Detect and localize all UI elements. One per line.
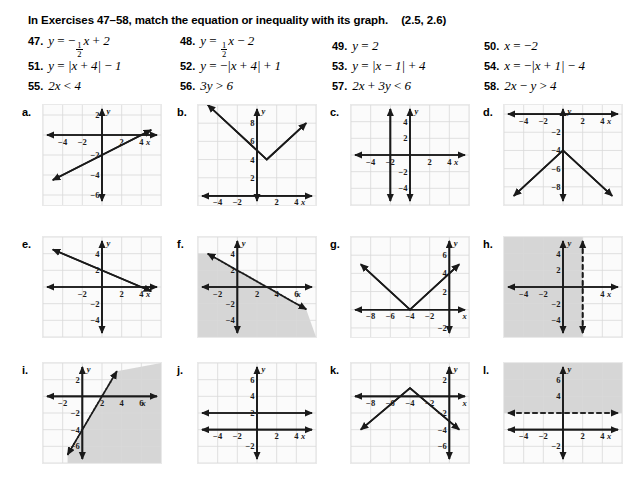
graph-panel-b: b. −4−2248642xy [177,104,322,214]
svg-text:−2: −2 [551,441,560,451]
svg-text:−4: −4 [226,315,236,325]
svg-text:−4: −4 [213,431,223,441]
svg-text:x: x [145,137,151,147]
graph-panel-j: j. −4−224642−2xy [177,362,322,472]
svg-text:−2: −2 [90,150,99,160]
exercise-number: 51. [28,60,43,72]
exercise-number: 48. [180,35,195,47]
svg-text:y: y [414,106,419,116]
exercise-equation: 2x + 3y < 6 [352,78,411,94]
graph-plot-e: −22442−2−4xy [42,236,162,338]
graph-plot-f: −224642−2−4xy [197,236,317,338]
svg-text:4: 4 [139,289,144,299]
svg-text:−2: −2 [425,311,434,321]
graph-label: l. [483,364,489,376]
svg-text:2: 2 [556,265,560,275]
graph-label: b. [177,106,187,118]
svg-text:x: x [300,431,306,441]
svg-text:x: x [606,116,612,126]
svg-text:2: 2 [443,375,447,385]
svg-text:2: 2 [95,110,99,120]
graph-panel-e: e. −22442−2−4xy [22,236,167,346]
svg-text:−6: −6 [71,441,80,451]
svg-text:4: 4 [600,116,605,126]
svg-text:x: x [141,398,147,408]
exercise-56: 56. 3y > 6 [180,78,332,94]
svg-text:2: 2 [100,398,104,408]
exercise-equation: y = −12x + 2 [48,33,109,59]
svg-text:6: 6 [250,375,254,385]
svg-text:y: y [261,364,266,374]
svg-text:−4: −4 [213,197,223,205]
exercise-equation: x = −|x + 1| − 4 [504,58,585,74]
svg-text:−4: −4 [405,398,415,408]
svg-text:−4: −4 [398,183,408,193]
svg-text:−2: −2 [233,431,242,441]
graph-panel-c: c. −4−22442−2−4xy [330,104,475,214]
svg-text:y: y [567,238,572,248]
graph-plot-d: −4−224−2−4−6−8xy [503,104,623,206]
exercise-number: 55. [28,80,43,92]
exercise-equation: y = |x + 4| − 1 [48,58,121,74]
graph-plot-a: −4−2242−2−4−6xy [42,104,162,206]
directions-reference: (2.5, 2.6) [401,14,446,26]
exercise-equation: y = −|x + 4| + 1 [200,58,281,74]
exercise-54: 54. x = −|x + 1| − 4 [484,58,636,74]
svg-text:−6: −6 [438,441,447,451]
svg-text:2: 2 [255,289,259,299]
exercise-number: 54. [484,60,499,72]
svg-text:−2: −2 [386,157,395,167]
svg-text:−2: −2 [425,398,434,408]
exercise-number: 52. [180,60,195,72]
graph-plot-h: −4−2442−2−4xy [503,236,623,338]
exercise-number: 50. [484,40,499,52]
svg-text:−4: −4 [366,157,376,167]
svg-text:2: 2 [443,287,447,297]
exercise-row: 55. 2x < 4 56. 3y > 6 57. 2x + 3y < 6 58… [28,76,638,96]
exercise-number: 57. [332,80,347,92]
graph-plot-k: −8−6−4−22−2−4−6xy [350,362,470,464]
exercise-50: 50. x = −2 [484,38,636,54]
svg-text:−2: −2 [78,137,87,147]
svg-text:2: 2 [95,265,99,275]
svg-text:4: 4 [120,398,125,408]
svg-text:−4: −4 [551,145,561,155]
exercise-57: 57. 2x + 3y < 6 [332,78,484,94]
svg-text:−8: −8 [366,311,375,321]
svg-text:2: 2 [403,133,407,143]
exercise-equation: 3y > 6 [200,78,233,94]
svg-text:2: 2 [76,375,80,385]
graph-plot-c: −4−22442−2−4xy [350,104,470,206]
graph-label: c. [330,106,339,118]
graph-plot-i: −22462−2−4−6xy [42,362,162,464]
graph-panel-l: l. −4−22464−2xy [483,362,628,472]
exercise-58: 58. 2x − y > 4 [484,78,636,94]
svg-text:−2: −2 [438,323,447,333]
graph-panel-g: g. −8−6−4−2642−2xy [330,236,475,346]
exercise-55: 55. 2x < 4 [28,78,180,94]
svg-text:−2: −2 [551,127,560,137]
svg-text:−4: −4 [519,431,529,441]
svg-text:6: 6 [250,136,254,146]
graph-label: e. [22,238,31,250]
svg-text:x: x [606,289,612,299]
svg-text:−2: −2 [551,299,560,309]
graph-panel-f: f. −224642−2−4xy [177,236,322,346]
svg-text:−4: −4 [519,116,529,126]
svg-text:−4: −4 [90,315,100,325]
svg-text:−4: −4 [551,315,561,325]
svg-text:y: y [261,106,266,116]
graph-plot-g: −8−6−4−2642−2xy [350,236,470,338]
svg-text:4: 4 [139,137,144,147]
svg-text:y: y [86,364,91,374]
exercise-row: 47. y = −12x + 2 48. y = 12x − 2 49. y =… [28,36,638,56]
svg-text:2: 2 [581,116,585,126]
graph-panel-a: a. −4−2242−2−4−6xy [22,104,167,214]
svg-text:−4: −4 [58,137,68,147]
exercise-page: In Exercises 47–58, match the equation o… [0,0,641,485]
svg-text:2: 2 [120,137,124,147]
svg-text:−8: −8 [551,182,560,192]
svg-text:−4: −4 [405,311,415,321]
graph-panel-d: d. −4−224−2−4−6−8xy [483,104,628,214]
svg-text:x: x [145,289,151,299]
